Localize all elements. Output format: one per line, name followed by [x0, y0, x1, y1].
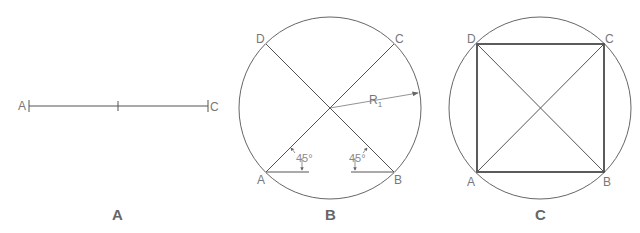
label-b: B: [603, 175, 611, 189]
label-c: C: [605, 32, 614, 46]
panel-a: A C A: [18, 99, 219, 223]
label-d: D: [256, 32, 265, 46]
label-b: B: [394, 173, 402, 187]
label-d: D: [467, 32, 476, 46]
label-a: A: [467, 175, 475, 189]
angle-label-left: 45°: [296, 152, 313, 164]
panel-b: R1 45° 45° D C A B B: [239, 17, 421, 223]
label-c: C: [395, 32, 404, 46]
label-a: A: [18, 99, 26, 113]
caption-b: B: [325, 206, 336, 223]
label-a: A: [257, 173, 265, 187]
caption-c: C: [535, 206, 546, 223]
radius-label: R1: [369, 93, 383, 109]
angle-arrow-left-up: [291, 148, 295, 153]
angle-label-right: 45°: [349, 152, 366, 164]
caption-a: A: [112, 206, 123, 223]
label-c: C: [210, 100, 219, 114]
construction-diagram: A C A R1 45° 45° D C A B B D C A B C: [0, 0, 640, 233]
panel-c: D C A B C: [449, 17, 631, 223]
